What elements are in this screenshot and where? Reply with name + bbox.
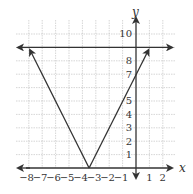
svg-text:5: 5 (126, 95, 132, 106)
v-right-arm (89, 50, 148, 168)
svg-text:1: 1 (146, 172, 152, 183)
x-axis-label: x (179, 161, 186, 175)
svg-text:10: 10 (119, 28, 132, 39)
svg-text:2: 2 (126, 136, 132, 147)
grid (16, 20, 176, 168)
svg-text:8: 8 (126, 55, 132, 66)
coordinate-graph: y x −8 −7 −6 −5 −4 −3 −2 −1 1 2 1 2 3 4 … (0, 0, 193, 194)
svg-text:−1: −1 (114, 172, 129, 183)
svg-text:2: 2 (160, 172, 166, 183)
svg-text:7: 7 (126, 69, 132, 80)
svg-text:4: 4 (126, 109, 132, 120)
x-tick-labels: −8 −7 −6 −5 −4 −3 −2 −1 1 2 (19, 172, 166, 183)
svg-text:3: 3 (126, 122, 132, 133)
v-left-arm (30, 50, 89, 168)
y-axis-label: y (131, 5, 139, 19)
svg-text:1: 1 (126, 149, 132, 160)
